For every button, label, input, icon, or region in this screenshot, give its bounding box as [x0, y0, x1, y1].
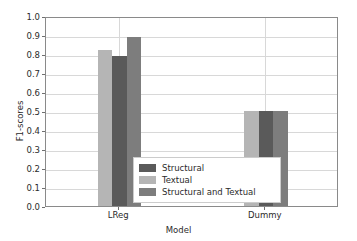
y-tick-label: 1.0 — [26, 12, 40, 22]
bar — [98, 50, 113, 206]
legend-label: Textual — [162, 174, 192, 186]
x-axis-label: Model — [0, 225, 357, 235]
gridline — [46, 75, 337, 76]
bar — [112, 56, 127, 206]
x-tick-label: Dummy — [225, 210, 305, 220]
legend-item: Textual — [139, 174, 275, 186]
legend-item: Structural and Textual — [139, 186, 275, 198]
y-tick-label: 0.3 — [26, 145, 40, 155]
y-tick-label: 0.1 — [26, 183, 40, 193]
gridline — [46, 37, 337, 38]
legend: StructuralTextualStructural and Textual — [133, 157, 281, 203]
y-tick-label: 0.4 — [26, 126, 40, 136]
gridline — [46, 113, 337, 114]
y-axis-label-wrapper: F1-scores — [2, 0, 16, 241]
legend-swatch — [139, 188, 156, 196]
gridline — [46, 132, 337, 133]
figure: F1-scores 0.00.10.20.30.40.50.60.70.80.9… — [0, 0, 357, 241]
y-tick-label: 0.7 — [26, 69, 40, 79]
y-tick-label: 0.2 — [26, 164, 40, 174]
y-tick-label: 0.8 — [26, 50, 40, 60]
gridline — [46, 56, 337, 57]
legend-label: Structural — [162, 162, 204, 174]
legend-label: Structural and Textual — [162, 186, 256, 198]
y-axis-label: F1-scores — [15, 100, 25, 141]
y-tick-label: 0.9 — [26, 31, 40, 41]
y-tick-label: 0.5 — [26, 107, 40, 117]
legend-swatch — [139, 164, 156, 172]
gridline — [46, 94, 337, 95]
x-tick-label: LReg — [78, 210, 158, 220]
y-tick-label: 0.0 — [26, 202, 40, 212]
y-tick-label: 0.6 — [26, 88, 40, 98]
legend-item: Structural — [139, 162, 275, 174]
legend-items: StructuralTextualStructural and Textual — [139, 162, 275, 198]
gridline — [46, 151, 337, 152]
legend-swatch — [139, 176, 156, 184]
